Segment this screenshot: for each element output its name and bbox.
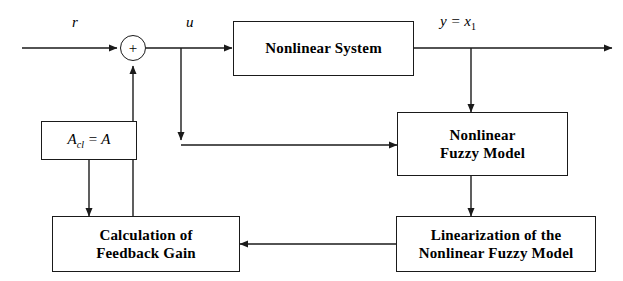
block-feedback-gain-calculation[interactable]: Calculation of Feedback Gain — [52, 216, 240, 272]
signal-label-reference: r — [72, 14, 78, 31]
summing-junction-sign: + — [129, 40, 137, 57]
linearization-label-line2: Nonlinear Fuzzy Model — [419, 244, 574, 262]
gain-matrix-label: Acl = A — [68, 131, 111, 150]
output-subscript: 1 — [471, 21, 476, 32]
block-diagram-canvas: r u y = x1 + Acl = A Nonlinear System No… — [0, 0, 623, 281]
fuzzy-model-label-line1: Nonlinear — [450, 126, 516, 144]
linearization-label-line1: Linearization of the — [431, 226, 562, 244]
nonlinear-system-label: Nonlinear System — [265, 39, 382, 57]
block-nonlinear-system[interactable]: Nonlinear System — [233, 21, 414, 76]
block-gain-matrix[interactable]: Acl = A — [41, 121, 137, 160]
fuzzy-model-label-line2: Fuzzy Model — [440, 144, 525, 162]
output-expression: y = x — [440, 13, 471, 29]
signal-label-output: y = x1 — [440, 13, 476, 32]
summing-junction[interactable]: + — [120, 35, 146, 61]
feedback-gain-label-line2: Feedback Gain — [96, 244, 196, 262]
block-nonlinear-fuzzy-model[interactable]: Nonlinear Fuzzy Model — [397, 112, 568, 176]
block-linearization[interactable]: Linearization of the Nonlinear Fuzzy Mod… — [396, 216, 596, 272]
feedback-gain-label-line1: Calculation of — [99, 226, 192, 244]
signal-label-control-u: u — [186, 14, 194, 31]
